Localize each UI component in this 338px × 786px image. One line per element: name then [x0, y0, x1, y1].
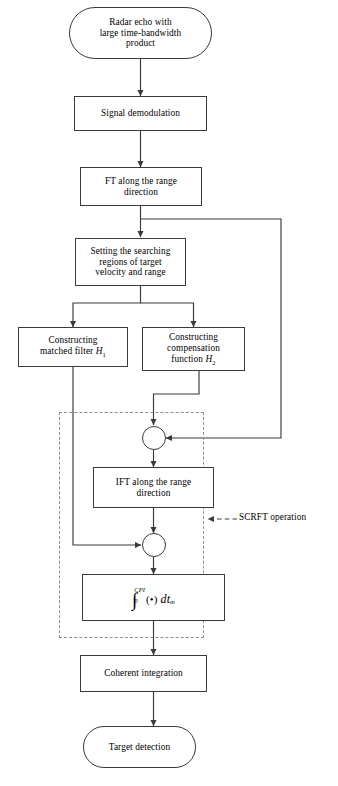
node-ift-range: IFT along the range direction: [93, 467, 214, 508]
node-target-detection: Target detection: [83, 726, 196, 768]
integral-differential: dt: [161, 591, 171, 605]
integral-differential-subscript: m: [170, 597, 175, 604]
integral-lower-limit: 0: [134, 598, 145, 605]
scrft-operation-label: SCRFT operation: [239, 512, 306, 522]
edge-setting-bus-right: [141, 303, 194, 327]
node-matched-symbol: H1: [96, 346, 106, 356]
multiplier-node-2: [142, 533, 166, 557]
integral-formula: ∫CPI0(•) dtm: [132, 587, 175, 609]
node-setting-search-regions: Setting the searching regions of target …: [75, 238, 186, 286]
node-ift-line2: direction: [137, 488, 171, 498]
node-compensation-line1: Constructing: [169, 332, 218, 342]
node-demod-label: Signal demodulation: [101, 108, 180, 119]
node-signal-demodulation: Signal demodulation: [74, 96, 207, 131]
node-ft-range: FT along the range direction: [80, 167, 202, 206]
multiplier-node-1: [142, 426, 166, 450]
node-constructing-compensation-function: Constructing compensation function H2: [142, 327, 245, 371]
node-compensation-line2: compensation: [167, 343, 220, 353]
node-start-line3: product: [126, 38, 155, 48]
node-setting-line2: regions of target: [99, 257, 161, 267]
node-integral-cpi: ∫CPI0(•) dtm: [82, 574, 225, 621]
node-setting-line1: Setting the searching: [90, 246, 170, 256]
flowchart-canvas: Radar echo with large time-bandwidth pro…: [0, 0, 338, 786]
integral-limits: CPI0: [134, 587, 145, 605]
node-ift-line1: IFT along the range: [116, 477, 191, 487]
node-coherent-integration: Coherent integration: [80, 655, 207, 692]
node-setting-line3: velocity and range: [95, 267, 165, 277]
node-compensation-line3-pre: function: [171, 354, 205, 364]
node-start-line2: large time-bandwidth: [100, 28, 182, 38]
node-ft-line1: FT along the range: [105, 176, 177, 186]
node-matched-line2-pre: matched filter: [40, 346, 96, 356]
node-compensation-subscript: 2: [212, 359, 215, 366]
integral-upper-limit: CPI: [134, 587, 145, 594]
node-coherent-label: Coherent integration: [104, 668, 183, 679]
node-constructing-matched-filter: Constructing matched filter H1: [18, 327, 128, 367]
node-matched-line1: Constructing: [48, 335, 97, 345]
integral-integrand: (•): [146, 592, 157, 604]
node-start-line1: Radar echo with: [109, 17, 171, 27]
scrft-operation-text: SCRFT operation: [239, 512, 306, 522]
node-detection-label: Target detection: [109, 742, 170, 753]
node-matched-subscript: 1: [103, 351, 106, 358]
node-compensation-symbol: H2: [205, 354, 215, 364]
edge-setting-bus: [73, 286, 141, 327]
node-ft-line2: direction: [124, 187, 158, 197]
node-matched-h: H: [96, 346, 103, 356]
node-start: Radar echo with large time-bandwidth pro…: [69, 7, 212, 59]
